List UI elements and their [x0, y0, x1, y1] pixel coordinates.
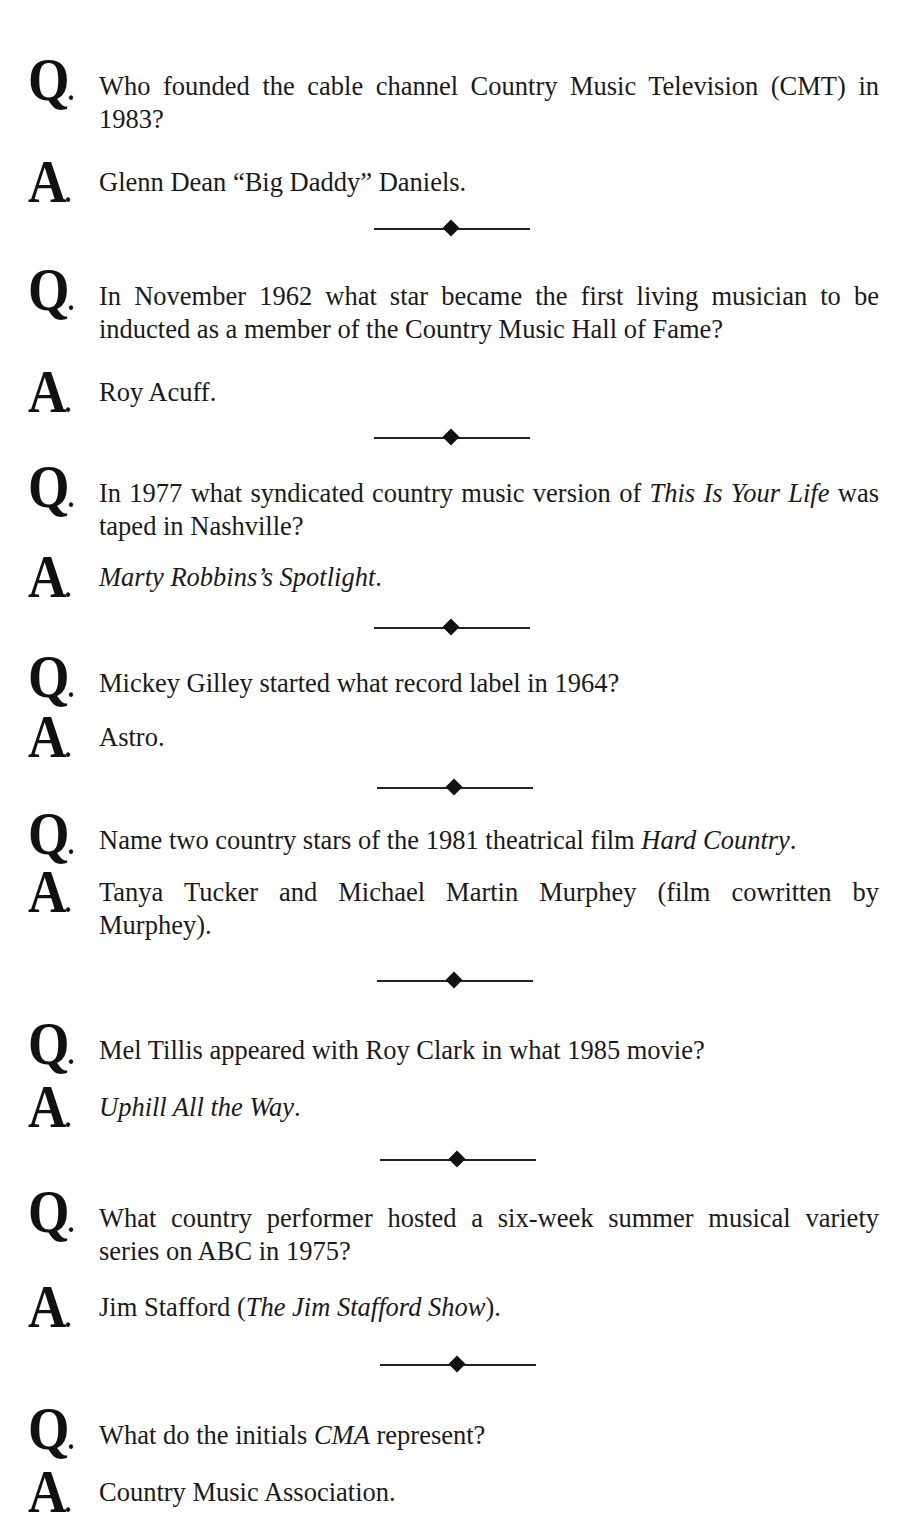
question-text: Who founded the cable channel Country Mu…: [99, 48, 879, 136]
question-marker: Q.: [28, 1180, 74, 1242]
section-divider: [380, 1357, 536, 1373]
question-text: In November 1962 what star became the fi…: [99, 258, 879, 346]
question-text: What country performer hosted a six-week…: [99, 1180, 879, 1268]
answer-marker: A.: [28, 545, 71, 607]
question-block: Q.Mel Tillis appeared with Roy Clark in …: [28, 1012, 879, 1067]
answer-block: A.Roy Acuff.: [28, 360, 879, 409]
diamond-icon: [443, 429, 460, 446]
section-divider: [374, 620, 530, 636]
answer-marker: A.: [28, 1460, 71, 1522]
question-block: Q.In 1977 what syndicated country music …: [28, 455, 879, 543]
answer-block: A.Astro.: [28, 705, 879, 754]
answer-text: Jim Stafford (The Jim Stafford Show).: [99, 1275, 879, 1324]
italic-title: Marty Robbins’s Spotlight: [99, 562, 375, 592]
question-block: Q.Name two country stars of the 1981 the…: [28, 802, 879, 857]
answer-block: A.Country Music Association.: [28, 1460, 879, 1509]
question-text: What do the initials CMA represent?: [99, 1397, 879, 1452]
question-block: Q.Mickey Gilley started what record labe…: [28, 645, 879, 700]
italic-title: This Is Your Life: [650, 478, 830, 508]
diamond-icon: [449, 1356, 466, 1373]
answer-text: Tanya Tucker and Michael Martin Murphey …: [99, 860, 879, 942]
section-divider: [377, 973, 533, 989]
answer-block: A.Marty Robbins’s Spotlight.: [28, 545, 879, 594]
diamond-icon: [443, 619, 460, 636]
section-divider: [374, 430, 530, 446]
question-text: Name two country stars of the 1981 theat…: [99, 802, 879, 857]
answer-block: A.Jim Stafford (The Jim Stafford Show).: [28, 1275, 879, 1324]
question-text: Mickey Gilley started what record label …: [99, 645, 879, 700]
answer-marker: A.: [28, 705, 71, 767]
answer-block: A.Tanya Tucker and Michael Martin Murphe…: [28, 860, 879, 942]
answer-text: Marty Robbins’s Spotlight.: [99, 545, 879, 594]
section-divider: [377, 780, 533, 796]
answer-block: A.Glenn Dean “Big Daddy” Daniels.: [28, 150, 879, 199]
section-divider: [380, 1152, 536, 1168]
answer-marker: A.: [28, 860, 71, 922]
answer-text: Uphill All the Way.: [99, 1075, 879, 1124]
question-block: Q.In November 1962 what star became the …: [28, 258, 879, 346]
answer-text: Roy Acuff.: [99, 360, 879, 409]
diamond-icon: [443, 220, 460, 237]
question-block: Q.Who founded the cable channel Country …: [28, 48, 879, 136]
answer-marker: A.: [28, 1075, 71, 1137]
question-marker: Q.: [28, 645, 74, 707]
question-block: Q.What do the initials CMA represent?: [28, 1397, 879, 1452]
question-marker: Q.: [28, 48, 74, 110]
question-marker: Q.: [28, 258, 74, 320]
answer-text: Astro.: [99, 705, 879, 754]
italic-title: Uphill All the Way: [99, 1092, 294, 1122]
italic-title: The Jim Stafford Show: [246, 1292, 486, 1322]
answer-text: Country Music Association.: [99, 1460, 879, 1509]
section-divider: [374, 221, 530, 237]
question-block: Q.What country performer hosted a six-we…: [28, 1180, 879, 1268]
answer-marker: A.: [28, 150, 71, 212]
answer-text: Glenn Dean “Big Daddy” Daniels.: [99, 150, 879, 199]
question-text: In 1977 what syndicated country music ve…: [99, 455, 879, 543]
italic-title: CMA: [314, 1420, 370, 1450]
diamond-icon: [449, 1151, 466, 1168]
question-marker: Q.: [28, 802, 74, 864]
answer-marker: A.: [28, 360, 71, 422]
question-marker: Q.: [28, 455, 74, 517]
question-marker: Q.: [28, 1397, 74, 1459]
question-marker: Q.: [28, 1012, 74, 1074]
diamond-icon: [446, 779, 463, 796]
answer-block: A.Uphill All the Way.: [28, 1075, 879, 1124]
question-text: Mel Tillis appeared with Roy Clark in wh…: [99, 1012, 879, 1067]
italic-title: Hard Country: [641, 825, 789, 855]
diamond-icon: [446, 972, 463, 989]
answer-marker: A.: [28, 1275, 71, 1337]
